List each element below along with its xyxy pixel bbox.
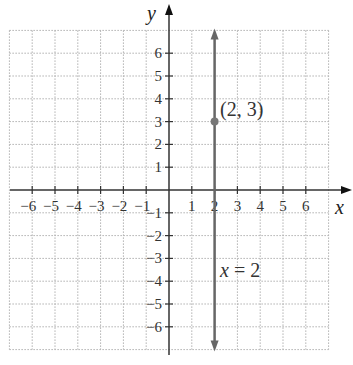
x-tick-label: −4 [66, 198, 82, 214]
x-tick-label: −3 [89, 198, 105, 214]
x-tick-label: −2 [111, 198, 127, 214]
x-axis-arrow-icon [341, 186, 352, 194]
point-marker [211, 118, 219, 126]
x-tick-label: 6 [302, 198, 310, 214]
y-tick-label: −5 [146, 296, 162, 312]
y-tick-label: −6 [146, 319, 162, 335]
x-tick-label: 1 [188, 198, 196, 214]
x-tick-label: −5 [43, 198, 59, 214]
equation-value: = 2 [229, 259, 260, 281]
y-tick-label: −4 [146, 273, 162, 289]
y-tick-label: 3 [155, 114, 163, 130]
y-axis-label: y [145, 2, 156, 25]
y-tick-label: 2 [155, 136, 163, 152]
y-tick-label: −3 [146, 250, 162, 266]
line-equation-label: x = 2 [219, 259, 260, 281]
y-tick-label: −1 [146, 205, 162, 221]
y-axis-arrow-icon [165, 4, 173, 15]
y-tick-label: 5 [155, 68, 163, 84]
x-tick-label: 3 [234, 198, 242, 214]
y-tick-label: 4 [155, 91, 163, 107]
point-label: (2, 3) [220, 98, 263, 121]
point-2-3 [211, 118, 219, 126]
axes [10, 4, 352, 355]
x-tick-label: −6 [20, 198, 36, 214]
y-tick-label: −2 [146, 228, 162, 244]
x-axis-label: x [334, 196, 344, 218]
x-tick-label: 4 [256, 198, 264, 214]
y-tick-label: 1 [155, 159, 163, 175]
equation-variable: x [219, 259, 229, 281]
x-tick-label: 5 [279, 198, 287, 214]
coordinate-plane: −6−5−4−3−2−1123456−6−5−4−3−2−1123456 x y… [0, 0, 353, 365]
y-tick-label: 6 [155, 45, 163, 61]
